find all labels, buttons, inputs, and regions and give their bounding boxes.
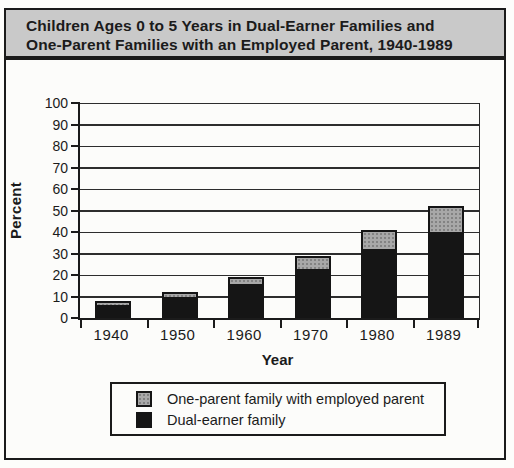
- gridline-60: [80, 189, 479, 191]
- y-tick-label-90: 90: [32, 116, 68, 134]
- bar-1940: [95, 301, 131, 318]
- legend-label-1: Dual-earner family: [167, 412, 285, 428]
- bar-segment-dual-earner-1970: [297, 269, 329, 316]
- y-tick-label-80: 80: [32, 137, 68, 155]
- bar-segment-one-parent-1980: [363, 232, 395, 249]
- bar-segment-dual-earner-1980: [363, 249, 395, 316]
- y-tick-50: [71, 210, 80, 212]
- y-tick-0: [71, 317, 80, 319]
- gridline-100: [80, 103, 479, 105]
- y-tick-label-60: 60: [32, 180, 68, 198]
- x-tick-label-1940: 1940: [78, 326, 145, 343]
- bar-1970: [295, 256, 331, 318]
- x-tick-label-1950: 1950: [145, 326, 212, 343]
- legend-swatch-black: [136, 412, 152, 428]
- y-tick-70: [71, 167, 80, 169]
- bar-1989: [428, 206, 464, 318]
- y-tick-10: [71, 296, 80, 298]
- x-tick-label-1960: 1960: [211, 326, 278, 343]
- x-axis-title: Year: [78, 351, 477, 368]
- legend-item-0: One-parent family with employed parent: [136, 391, 444, 407]
- y-tick-100: [71, 102, 80, 104]
- gridline-50: [80, 210, 479, 212]
- gridline-80: [80, 146, 479, 148]
- y-tick-80: [71, 145, 80, 147]
- figure-title-line2: One-Parent Families with an Employed Par…: [26, 35, 496, 54]
- y-tick-label-20: 20: [32, 266, 68, 284]
- x-tick-label-1980: 1980: [344, 326, 411, 343]
- x-tick-label-1989: 1989: [411, 326, 478, 343]
- bar-segment-one-parent-1970: [297, 258, 329, 269]
- y-axis-title: Percent: [7, 146, 24, 276]
- figure-page: Children Ages 0 to 5 Years in Dual-Earne…: [0, 0, 514, 468]
- gridline-70: [80, 167, 479, 169]
- y-tick-20: [71, 274, 80, 276]
- gridline-40: [80, 232, 479, 234]
- y-tick-40: [71, 231, 80, 233]
- y-tick-label-50: 50: [32, 202, 68, 220]
- bar-1950: [162, 292, 198, 318]
- gridline-30: [80, 253, 479, 255]
- gridline-10: [80, 296, 479, 298]
- chart-container: Percent 0102030405060708090100 194019501…: [4, 58, 506, 460]
- x-tick-6: [477, 320, 479, 328]
- y-tick-60: [71, 188, 80, 190]
- bar-1960: [228, 277, 264, 318]
- y-tick-90: [71, 124, 80, 126]
- y-tick-label-70: 70: [32, 159, 68, 177]
- gridline-20: [80, 275, 479, 277]
- bar-1980: [361, 230, 397, 318]
- legend-item-1: Dual-earner family: [136, 412, 444, 428]
- legend-label-0: One-parent family with employed parent: [167, 391, 424, 407]
- plot-area: 0102030405060708090100: [78, 103, 480, 320]
- legend: One-parent family with employed parentDu…: [110, 382, 446, 436]
- bar-segment-dual-earner-1960: [230, 284, 262, 316]
- y-tick-label-100: 100: [32, 94, 68, 112]
- legend-swatch-gray-dotted: [136, 391, 152, 407]
- bar-segment-one-parent-1989: [430, 208, 462, 232]
- y-tick-label-40: 40: [32, 223, 68, 241]
- gridline-90: [80, 124, 479, 126]
- x-tick-label-1970: 1970: [278, 326, 345, 343]
- figure-title-line1: Children Ages 0 to 5 Years in Dual-Earne…: [26, 16, 496, 35]
- figure-title: Children Ages 0 to 5 Years in Dual-Earne…: [4, 8, 506, 58]
- y-tick-30: [71, 253, 80, 255]
- bar-segment-dual-earner-1989: [430, 232, 462, 316]
- bar-segment-dual-earner-1940: [97, 305, 129, 316]
- y-tick-label-10: 10: [32, 288, 68, 306]
- x-axis-labels: 194019501960197019801989: [78, 326, 477, 346]
- y-tick-label-30: 30: [32, 245, 68, 263]
- bar-segment-dual-earner-1950: [164, 297, 196, 317]
- y-tick-label-0: 0: [32, 309, 68, 327]
